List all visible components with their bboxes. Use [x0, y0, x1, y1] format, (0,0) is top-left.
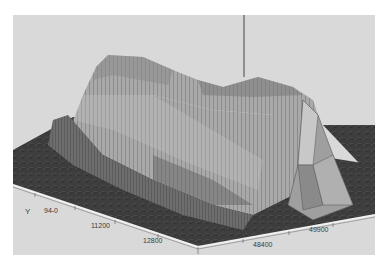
plot-panel: Y 94-0 11200 12800 48400 49900 — [13, 15, 375, 255]
y-tick-label: 94-0 — [44, 207, 58, 214]
y-axis-label: Y — [25, 207, 30, 216]
y-tick-label: 11200 — [91, 222, 110, 229]
y-tick-label: 12800 — [143, 237, 162, 244]
surface-plot — [13, 15, 375, 255]
x-tick-label: 48400 — [253, 241, 272, 248]
x-tick-label: 49900 — [309, 226, 328, 233]
